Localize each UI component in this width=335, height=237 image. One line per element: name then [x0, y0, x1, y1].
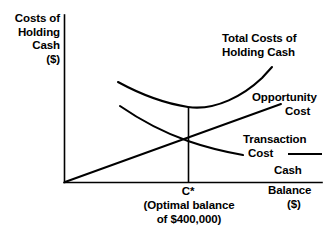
transaction-cost-label-line2: Cost	[248, 147, 273, 161]
cash-cost-figure: Costs of Holding Cash ($) Total Costs of…	[0, 0, 335, 237]
transaction-cost-label-line1: Transaction	[243, 133, 306, 147]
optimal-balance-caption: (Optimal balance of $400,000)	[108, 199, 270, 226]
opportunity-cost-label-line1: Opportunity	[252, 91, 317, 105]
transaction-cost-curve	[120, 106, 243, 155]
opportunity-cost-label-line2: Cost	[285, 105, 310, 119]
x-axis-title-line3: ($)	[287, 198, 301, 212]
y-axis-title: Costs of Holding Cash ($)	[2, 12, 60, 66]
optimal-balance-tick-label: C*	[172, 185, 204, 199]
x-axis-title-line1: Cash	[274, 164, 302, 178]
total-cost-curve	[118, 67, 272, 108]
x-axis-title-line2: Balance	[268, 184, 311, 198]
total-cost-curve-label: Total Costs of Holding Cash	[222, 32, 332, 59]
